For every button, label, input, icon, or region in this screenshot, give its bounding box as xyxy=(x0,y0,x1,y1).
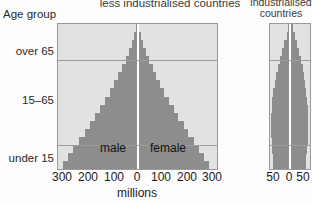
left-center-axis xyxy=(137,24,139,169)
bar-male-35-39 xyxy=(100,105,137,114)
bar-male-45-49 xyxy=(273,88,290,97)
bar-male-0-4 xyxy=(63,161,137,170)
bar-female-10-14 xyxy=(290,145,307,154)
bar-male-10-14 xyxy=(272,145,290,154)
bar-male-45-49 xyxy=(110,88,138,97)
bar-male-20-24 xyxy=(271,129,290,138)
y-axis-tick-1: 15–65 xyxy=(22,94,54,106)
bar-male-5-9 xyxy=(273,153,290,162)
right-gridline-upper xyxy=(270,60,310,61)
bar-female-20-24 xyxy=(290,129,308,138)
bar-female-35-39 xyxy=(290,105,308,114)
female-label: female xyxy=(150,141,186,155)
bar-male-0-4 xyxy=(273,161,290,170)
bar-female-0-4 xyxy=(138,161,209,170)
right-panel-title-line2: countries xyxy=(246,8,312,19)
left-panel-title: less industrialised countries xyxy=(80,0,260,9)
x-axis-title: millions xyxy=(97,186,177,200)
bar-female-50-54 xyxy=(138,80,161,89)
bar-female-50-54 xyxy=(290,80,305,89)
bar-male-55-59 xyxy=(118,72,137,81)
bar-male-55-59 xyxy=(276,72,290,81)
right-panel-title: industrialised countries xyxy=(246,0,312,19)
x-axis-left-ticks-6: 300 xyxy=(192,170,232,184)
bar-male-50-54 xyxy=(275,80,290,89)
left-gridline-upper xyxy=(58,60,217,61)
bar-female-40-44 xyxy=(290,97,307,106)
bar-male-25-29 xyxy=(90,121,138,130)
bar-female-35-39 xyxy=(138,105,174,114)
bar-female-5-9 xyxy=(290,153,306,162)
bar-female-70-74 xyxy=(138,48,147,57)
bar-male-35-39 xyxy=(272,105,290,114)
bar-female-55-59 xyxy=(138,72,157,81)
bar-male-30-34 xyxy=(95,113,137,122)
bar-female-30-34 xyxy=(138,113,179,122)
bar-female-20-24 xyxy=(138,129,189,138)
bar-male-60-64 xyxy=(122,64,137,73)
male-label: male xyxy=(100,141,126,155)
left-gridline-lower xyxy=(58,145,217,146)
bar-female-25-29 xyxy=(138,121,184,130)
x-axis-right-ticks-2: 50 xyxy=(283,170,312,184)
bar-male-20-24 xyxy=(85,129,138,138)
bar-female-40-44 xyxy=(138,97,169,106)
bar-female-60-64 xyxy=(138,64,153,73)
bar-male-25-29 xyxy=(271,121,290,130)
bar-female-45-49 xyxy=(290,88,306,97)
left-population-pyramid-plot: male female xyxy=(57,23,218,170)
bar-female-45-49 xyxy=(138,88,165,97)
bar-female-70-74 xyxy=(290,48,299,57)
bar-male-40-44 xyxy=(272,97,290,106)
right-center-axis xyxy=(289,24,291,169)
bar-female-0-4 xyxy=(290,161,306,170)
bar-female-30-34 xyxy=(290,113,308,122)
y-axis-tick-2: under 15 xyxy=(9,152,54,164)
bar-female-55-59 xyxy=(290,72,304,81)
bar-female-25-29 xyxy=(290,121,308,130)
bar-male-30-34 xyxy=(271,113,290,122)
right-population-pyramid-plot xyxy=(269,23,311,170)
bar-male-50-54 xyxy=(114,80,137,89)
right-gridline-lower xyxy=(270,145,310,146)
figure-root: less industrialised countries industrial… xyxy=(0,0,312,203)
y-axis-tick-0: over 65 xyxy=(16,45,54,57)
bar-male-40-44 xyxy=(105,97,137,106)
bar-female-60-64 xyxy=(290,64,303,73)
bar-female-75-79 xyxy=(290,40,297,49)
